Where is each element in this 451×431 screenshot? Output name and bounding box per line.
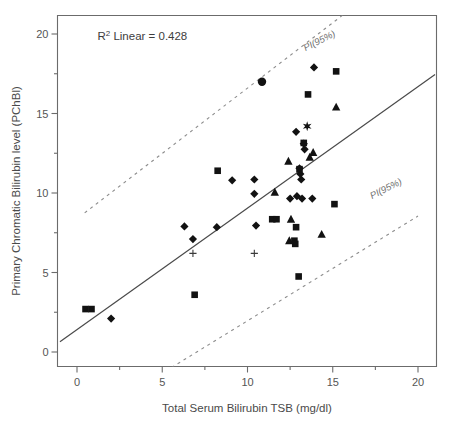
y-tick-label: 20: [36, 28, 48, 40]
x-tick-label: 0: [74, 376, 80, 388]
data-point-diamond: [301, 145, 309, 153]
data-point-diamond: [107, 315, 115, 323]
data-point-diamond: [213, 223, 221, 231]
star-series: [303, 121, 312, 131]
chart-annotations: R2 Linear = 0.428PI(95%)PI(95%): [97, 28, 403, 201]
data-point-square: [293, 224, 300, 231]
diamond-series: [107, 63, 318, 322]
data-point-diamond: [297, 175, 305, 183]
regression-line: [60, 75, 435, 342]
data-point-square: [88, 306, 95, 313]
axis-labels: 0510152005101520Total Serum Bilirubin TS…: [10, 28, 424, 414]
data-point-square: [305, 91, 312, 98]
data-point-square: [331, 201, 338, 208]
square-series: [82, 68, 339, 312]
scatter-plot-figure: 0510152005101520Total Serum Bilirubin TS…: [0, 0, 451, 431]
data-point-diamond: [308, 194, 316, 202]
data-point-triangle: [332, 103, 340, 111]
data-point-circle: [258, 78, 266, 86]
data-markers: [82, 63, 340, 322]
x-tick-label: 20: [412, 376, 424, 388]
data-point-square: [191, 291, 198, 298]
data-point-diamond: [180, 222, 188, 230]
y-tick-label: 10: [36, 187, 48, 199]
y-tick-label: 5: [42, 267, 48, 279]
plus-series: [189, 250, 258, 257]
data-point-square: [273, 216, 280, 223]
data-point-square: [333, 68, 340, 75]
y-tick-label: 0: [42, 346, 48, 358]
x-axis-title: Total Serum Bilirubin TSB (mg/dl): [162, 402, 332, 414]
upper-prediction-interval-label: PI(95%): [301, 28, 337, 53]
data-point-diamond: [286, 194, 294, 202]
circle-series: [258, 78, 266, 86]
data-point-triangle: [284, 157, 292, 165]
chart-canvas: 0510152005101520Total Serum Bilirubin TS…: [0, 0, 451, 431]
data-point-diamond: [189, 235, 197, 243]
data-point-square: [82, 306, 89, 313]
lower-prediction-interval-label: PI(95%): [368, 176, 404, 201]
triangle-series: [271, 103, 341, 244]
linear-regression-line: [60, 75, 435, 342]
data-point-square: [296, 166, 303, 173]
data-point-triangle: [317, 230, 325, 238]
data-point-star: [303, 121, 312, 131]
data-point-triangle: [271, 188, 279, 196]
x-tick-label: 5: [159, 376, 165, 388]
data-point-triangle: [309, 148, 317, 156]
x-tick-label: 15: [327, 376, 339, 388]
data-point-triangle: [287, 215, 295, 223]
data-point-square: [214, 167, 221, 174]
data-point-diamond: [250, 190, 258, 198]
data-point-square: [300, 140, 307, 147]
axis-ticks: [52, 34, 419, 373]
y-tick-label: 15: [36, 108, 48, 120]
data-point-diamond: [292, 128, 300, 136]
x-tick-label: 10: [241, 376, 253, 388]
data-point-plus: [189, 250, 196, 257]
data-point-diamond: [310, 63, 318, 71]
r-squared-annotation: R2 Linear = 0.428: [97, 29, 187, 42]
data-point-plus: [251, 250, 258, 257]
data-point-square: [295, 273, 302, 280]
data-point-diamond: [228, 176, 236, 184]
data-point-diamond: [250, 175, 258, 183]
y-axis-title: Primary Chromatic Bilirubin level (PChBl…: [10, 86, 22, 296]
data-point-diamond: [252, 221, 260, 229]
